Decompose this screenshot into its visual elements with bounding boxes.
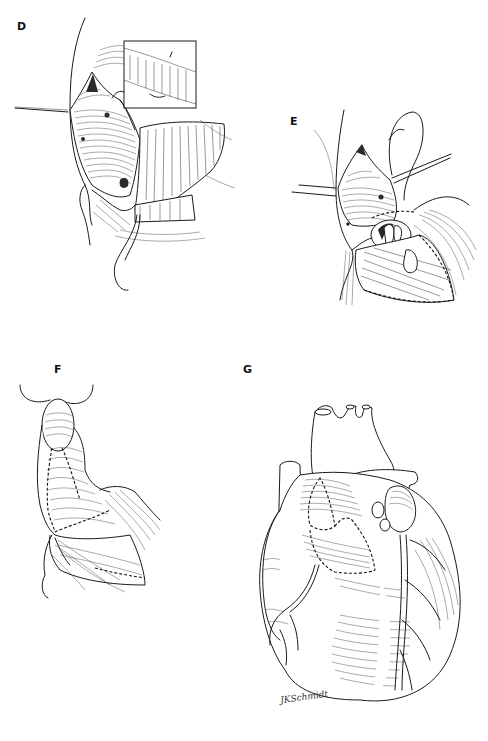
panel-f-drawing	[0, 360, 244, 600]
panel-g-drawing	[240, 360, 488, 741]
panel-e: E	[244, 100, 488, 320]
panel-g: G	[240, 360, 488, 741]
panel-e-drawing	[244, 100, 488, 320]
panel-f: F	[0, 360, 244, 600]
panel-d: D	[0, 0, 244, 300]
panel-d-drawing	[0, 0, 244, 300]
